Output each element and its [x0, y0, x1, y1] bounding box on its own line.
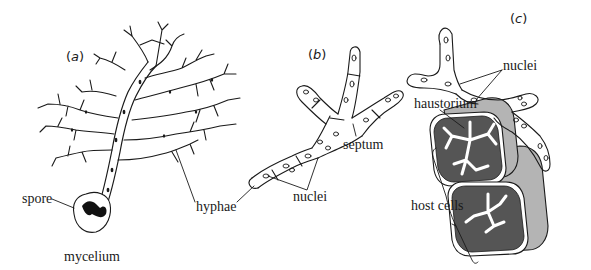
label-mycelium: mycelium: [64, 250, 120, 264]
label-spore: spore: [22, 192, 52, 206]
label-nuclei-c: nuclei: [503, 59, 537, 73]
label-host-cells: host cells: [411, 199, 464, 213]
panel-label-a: (a): [66, 50, 84, 63]
label-hyphae: hyphae: [196, 200, 236, 214]
label-septum: septum: [343, 138, 383, 152]
label-haustorium: haustorium: [414, 97, 477, 111]
diagram-canvas: [0, 0, 591, 270]
fungal-structure-figure: (a) (b) (c) spore mycelium hyphae nuclei…: [0, 0, 591, 270]
label-nuclei-b: nuclei: [293, 190, 327, 204]
panel-label-c: (c): [510, 12, 527, 25]
septate-hyphae-drawing: [249, 47, 403, 188]
panel-label-b: (b): [308, 48, 326, 61]
